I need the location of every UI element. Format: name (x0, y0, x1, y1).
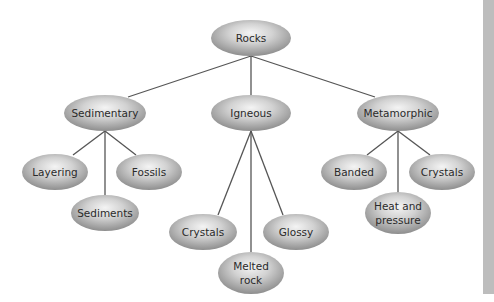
node-label-crystals-metamorphic: Crystals (421, 166, 463, 178)
rocks-concept-map: Rocks Sedimentary Igneous Metamorphic La… (0, 0, 494, 302)
edge-igneous-glossy (251, 131, 283, 215)
node-label-sedimentary: Sedimentary (71, 107, 138, 119)
node-label-metamorphic: Metamorphic (363, 107, 432, 119)
page-edge-strip (483, 0, 494, 294)
node-label-rocks: Rocks (236, 32, 267, 44)
node-label-melted-rock-line1: Melted (233, 260, 269, 272)
node-label-sediments: Sediments (77, 207, 133, 219)
node-label-banded: Banded (334, 166, 374, 178)
node-label-heat-pressure-line2: pressure (375, 214, 420, 226)
node-label-fossils: Fossils (132, 166, 166, 178)
node-label-crystals-igneous: Crystals (182, 226, 224, 238)
node-crystals-igneous: Crystals (169, 214, 237, 250)
node-banded: Banded (321, 154, 387, 190)
node-metamorphic: Metamorphic (357, 95, 439, 131)
node-label-heat-pressure-line1: Heat and (374, 200, 422, 212)
node-glossy: Glossy (263, 214, 329, 250)
node-igneous: Igneous (211, 95, 291, 131)
node-heat-and-pressure: Heat and pressure (365, 192, 431, 234)
edge-rocks-sedimentary (128, 56, 251, 97)
edge-sedimentary-layering (73, 131, 105, 155)
edge-sedimentary-fossils (105, 131, 136, 155)
edge-igneous-crystals (218, 131, 251, 215)
node-melted-rock: Melted rock (218, 252, 284, 294)
node-sedimentary: Sedimentary (64, 95, 146, 131)
node-layering: Layering (22, 154, 88, 190)
edge-rocks-metamorphic (251, 56, 375, 97)
node-label-glossy: Glossy (279, 226, 314, 238)
edge-metamorphic-crystals (398, 131, 430, 155)
edge-metamorphic-banded (367, 131, 398, 155)
node-label-igneous: Igneous (230, 107, 271, 119)
node-label-layering: Layering (32, 166, 78, 178)
node-sediments: Sediments (71, 195, 139, 231)
node-crystals-metamorphic: Crystals (409, 154, 475, 190)
node-label-melted-rock-line2: rock (240, 274, 263, 286)
node-rocks: Rocks (211, 20, 291, 56)
node-fossils: Fossils (116, 154, 182, 190)
